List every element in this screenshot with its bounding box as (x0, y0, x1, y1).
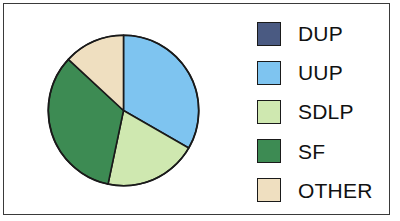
legend-swatch-other (257, 178, 281, 202)
legend-swatch-sf (257, 139, 281, 163)
legend-label-other: OTHER (298, 180, 373, 201)
pie-chart-figure: DUP UUP SDLP SF OTHER (0, 0, 400, 221)
legend-swatch-uup (257, 61, 281, 85)
pie-chart-svg (47, 34, 200, 187)
legend-label-sf: SF (298, 141, 325, 162)
legend-swatch-dup (257, 22, 281, 46)
pie-chart-plot-area (47, 34, 200, 187)
figure-frame: DUP UUP SDLP SF OTHER (3, 3, 390, 215)
legend-label-sdlp: SDLP (298, 101, 354, 122)
legend-item-other[interactable]: OTHER (257, 171, 387, 210)
legend-item-sdlp[interactable]: SDLP (257, 92, 387, 131)
legend-item-dup[interactable]: DUP (257, 14, 387, 53)
legend-label-uup: UUP (298, 62, 343, 83)
legend-label-dup: DUP (298, 23, 343, 44)
legend-item-uup[interactable]: UUP (257, 53, 387, 92)
legend-swatch-sdlp (257, 100, 281, 124)
chart-legend: DUP UUP SDLP SF OTHER (257, 14, 387, 210)
legend-item-sf[interactable]: SF (257, 132, 387, 171)
